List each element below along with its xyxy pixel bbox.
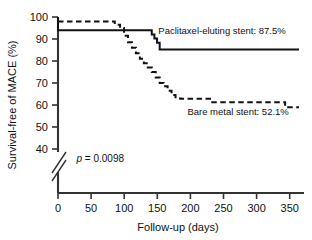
chart-canvas: 100 90 80 70 60 50 40 0 50 100 150 200 2: [0, 0, 312, 240]
x-tick-label-350: 350: [281, 202, 299, 214]
curve-label-bare-metal-stent: Bare metal stent: 52.1%: [187, 106, 289, 117]
y-axis-tick-labels: 100 90 80 70 60 50 40: [30, 11, 48, 155]
y-axis-title: Survival-free of MACE (%): [6, 41, 18, 170]
x-tick-label-0: 0: [55, 202, 61, 214]
x-tick-label-250: 250: [214, 202, 232, 214]
p-value-number: = 0.0098: [82, 153, 124, 164]
y-tick-label-100: 100: [30, 11, 48, 23]
x-tick-label-100: 100: [115, 202, 133, 214]
y-tick-label-80: 80: [36, 55, 48, 67]
p-value-annotation: p = 0.0098: [75, 153, 124, 164]
y-tick-label-60: 60: [36, 99, 48, 111]
x-tick-label-150: 150: [148, 202, 166, 214]
y-tick-label-40: 40: [36, 143, 48, 155]
y-tick-label-90: 90: [36, 33, 48, 45]
x-axis-title: Follow-up (days): [137, 221, 218, 233]
kaplan-meier-chart: 100 90 80 70 60 50 40 0 50 100 150 200 2: [0, 0, 312, 240]
y-tick-label-50: 50: [36, 121, 48, 133]
x-tick-label-200: 200: [181, 202, 199, 214]
x-tick-label-50: 50: [85, 202, 97, 214]
y-tick-label-70: 70: [36, 77, 48, 89]
x-tick-label-300: 300: [247, 202, 265, 214]
curve-label-paclitaxel-eluting-stent: Paclitaxel-eluting stent: 87.5%: [158, 25, 286, 36]
x-axis-tick-labels: 0 50 100 150 200 250 300 350: [55, 202, 299, 214]
